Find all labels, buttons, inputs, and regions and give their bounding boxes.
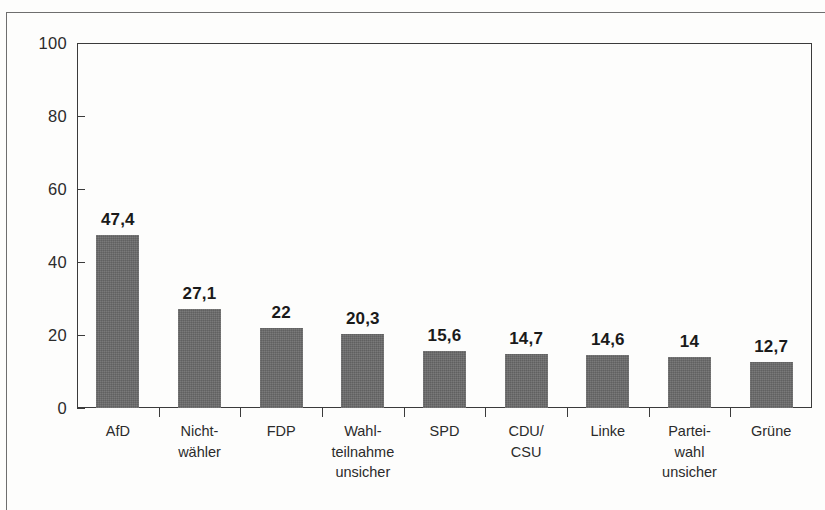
page-border-top <box>6 12 825 13</box>
y-tick-label: 40 <box>7 253 67 272</box>
bar <box>750 362 793 408</box>
bar-value-label: 27,1 <box>183 284 217 304</box>
bar-value-label: 20,3 <box>346 309 380 329</box>
y-tick-label: 100 <box>7 34 67 53</box>
bar-value-label: 14 <box>680 332 699 352</box>
x-category-label: FDP <box>240 421 322 442</box>
bar <box>96 235 139 408</box>
bar-value-label: 47,4 <box>101 210 135 230</box>
x-tick-mark <box>649 408 650 417</box>
x-tick-mark <box>159 408 160 417</box>
x-category-label: Linke <box>567 421 649 442</box>
bar-value-label: 22 <box>272 303 291 323</box>
bar <box>178 309 221 408</box>
x-category-label: Wahl- teilnahme unsicher <box>322 421 404 483</box>
bar <box>505 354 548 408</box>
x-category-label: AfD <box>77 421 159 442</box>
y-tick-label: 20 <box>7 326 67 345</box>
bar <box>423 351 466 408</box>
y-tick-label: 0 <box>7 399 67 418</box>
y-tick-label: 60 <box>7 180 67 199</box>
bar <box>668 357 711 408</box>
bar <box>586 355 629 408</box>
y-tick-mark <box>77 262 85 263</box>
x-category-label: Grüne <box>730 421 812 442</box>
x-tick-mark <box>567 408 568 417</box>
y-tick-label: 80 <box>7 107 67 126</box>
x-tick-mark <box>404 408 405 417</box>
bar-value-label: 14,7 <box>509 329 543 349</box>
bar-value-label: 15,6 <box>428 326 462 346</box>
x-category-label: Partei- wahl unsicher <box>649 421 731 483</box>
x-category-label: SPD <box>404 421 486 442</box>
bar <box>260 328 303 408</box>
y-tick-mark <box>77 116 85 117</box>
x-tick-mark <box>322 408 323 417</box>
y-tick-mark <box>77 189 85 190</box>
x-category-label: Nicht- wähler <box>159 421 241 462</box>
bar-chart-figure: 020406080100 47,427,12220,315,614,714,61… <box>0 0 825 510</box>
y-tick-mark <box>77 408 85 409</box>
x-tick-mark <box>485 408 486 417</box>
x-tick-mark <box>240 408 241 417</box>
x-category-label: CDU/ CSU <box>485 421 567 462</box>
bar-value-label: 12,7 <box>754 337 788 357</box>
x-tick-mark <box>730 408 731 417</box>
y-tick-mark <box>77 335 85 336</box>
bar-value-label: 14,6 <box>591 330 625 350</box>
bar <box>341 334 384 408</box>
